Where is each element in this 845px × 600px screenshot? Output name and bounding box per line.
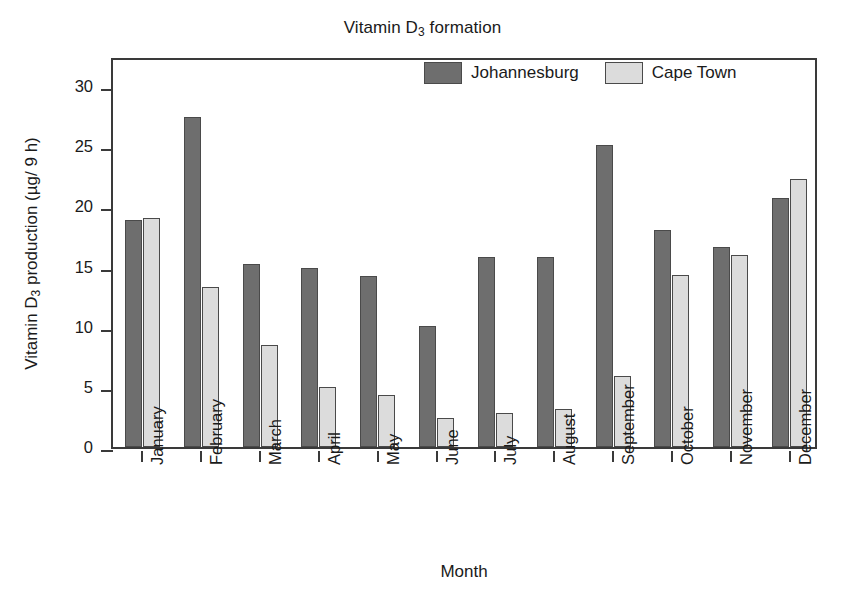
chart-legend: JohannesburgCape Town bbox=[424, 62, 737, 84]
x-axis-tick bbox=[730, 451, 732, 462]
y-axis-tick-label: 5 bbox=[0, 378, 93, 397]
y-axis-tick bbox=[101, 330, 113, 332]
x-axis-tick-label: October bbox=[678, 406, 697, 465]
x-axis-tick-label: January bbox=[148, 406, 167, 465]
plot-frame bbox=[111, 58, 817, 449]
legend-label: Cape Town bbox=[652, 63, 737, 83]
legend-swatch-icon bbox=[605, 62, 643, 84]
legend-item-cape-town[interactable]: Cape Town bbox=[605, 62, 737, 84]
x-axis-tick bbox=[494, 451, 496, 462]
bar-january-johannesburg bbox=[125, 220, 142, 447]
x-axis-tick bbox=[200, 451, 202, 462]
y-axis-tick bbox=[101, 390, 113, 392]
chart-title-post: formation bbox=[425, 18, 502, 37]
y-axis-tick-label: 10 bbox=[0, 318, 93, 337]
bar-march-johannesburg bbox=[243, 264, 260, 447]
x-axis-tick-label: May bbox=[384, 434, 403, 465]
y-axis-tick bbox=[101, 209, 113, 211]
bar-december-johannesburg bbox=[772, 198, 789, 447]
x-axis-tick bbox=[671, 451, 673, 462]
y-axis-tick-label: 25 bbox=[0, 137, 93, 156]
x-axis-tick-label: June bbox=[443, 429, 462, 465]
x-axis-tick bbox=[789, 451, 791, 462]
chart-title-subscript: 3 bbox=[418, 25, 425, 39]
x-axis-tick-label: February bbox=[207, 399, 226, 465]
y-axis-tick bbox=[101, 149, 113, 151]
x-axis-tick-label: July bbox=[501, 436, 520, 465]
bar-may-johannesburg bbox=[360, 276, 377, 447]
x-axis-tick-label: August bbox=[560, 414, 579, 465]
x-axis-tick bbox=[259, 451, 261, 462]
bar-september-johannesburg bbox=[596, 145, 613, 447]
x-axis-tick bbox=[553, 451, 555, 462]
bar-february-johannesburg bbox=[184, 117, 201, 447]
x-axis-tick bbox=[141, 451, 143, 462]
bar-april-johannesburg bbox=[301, 268, 318, 447]
bar-august-johannesburg bbox=[537, 257, 554, 447]
x-axis-tick bbox=[318, 451, 320, 462]
legend-item-johannesburg[interactable]: Johannesburg bbox=[424, 62, 579, 84]
x-axis-tick bbox=[436, 451, 438, 462]
bar-june-johannesburg bbox=[419, 326, 436, 448]
y-axis-tick-label: 20 bbox=[0, 197, 93, 216]
x-axis-tick bbox=[612, 451, 614, 462]
y-axis-tick-label: 30 bbox=[0, 77, 93, 96]
x-axis-tick-label: November bbox=[737, 389, 756, 465]
x-axis-title: Month bbox=[111, 562, 817, 582]
chart-figure: Vitamin D3 formation Vitamin D3 producti… bbox=[0, 0, 845, 600]
y-axis-tick bbox=[101, 270, 113, 272]
x-axis-tick-label: April bbox=[325, 432, 344, 465]
bar-july-johannesburg bbox=[478, 257, 495, 447]
x-axis-tick bbox=[377, 451, 379, 462]
legend-label: Johannesburg bbox=[471, 63, 579, 83]
x-axis-tick-label: March bbox=[266, 419, 285, 465]
y-axis-tick bbox=[101, 450, 113, 452]
legend-swatch-icon bbox=[424, 62, 462, 84]
x-axis-tick-label: September bbox=[619, 384, 638, 465]
chart-title: Vitamin D3 formation bbox=[0, 18, 845, 39]
y-axis-title-subscript: 3 bbox=[29, 290, 43, 297]
bar-october-johannesburg bbox=[654, 230, 671, 447]
y-axis-tick-label: 15 bbox=[0, 258, 93, 277]
plot-area bbox=[113, 60, 815, 447]
x-axis-tick-label: December bbox=[796, 389, 815, 465]
bar-november-johannesburg bbox=[713, 247, 730, 447]
y-axis-tick-label: 0 bbox=[0, 438, 93, 457]
y-axis-tick bbox=[101, 89, 113, 91]
chart-title-pre: Vitamin D bbox=[344, 18, 418, 37]
